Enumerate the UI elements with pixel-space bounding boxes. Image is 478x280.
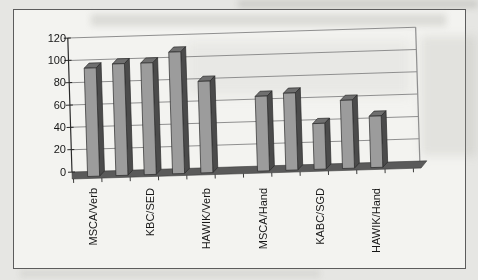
bar xyxy=(255,96,269,171)
bar xyxy=(198,81,213,173)
scan-smudge xyxy=(20,270,320,277)
y-axis-label: 0 xyxy=(60,166,66,178)
x-axis-label: HAWIK/Verb xyxy=(200,188,212,249)
gridline xyxy=(68,27,416,38)
scan-smudge xyxy=(238,0,478,8)
page-background: 020406080100120MSCA/VerbKBC/SEDHAWIK/Ver… xyxy=(0,0,478,280)
bar xyxy=(313,123,326,169)
bar xyxy=(283,93,297,170)
x-axis-label: KBC/SED xyxy=(144,188,156,236)
y-axis-label: 20 xyxy=(54,143,66,155)
x-axis-label: HAWIK/Hand xyxy=(370,188,382,253)
y-axis-label: 80 xyxy=(54,76,66,88)
y-axis-label: 40 xyxy=(54,121,66,133)
chart-svg: 020406080100120MSCA/VerbKBC/SEDHAWIK/Ver… xyxy=(14,10,465,268)
bar xyxy=(369,116,383,168)
y-axis-label: 100 xyxy=(48,54,66,66)
x-axis-label: KABC/SGD xyxy=(314,188,326,245)
x-axis-label: MSCA/Verb xyxy=(87,188,99,245)
figure-box: 020406080100120MSCA/VerbKBC/SEDHAWIK/Ver… xyxy=(13,9,466,269)
bar xyxy=(340,100,354,168)
x-axis-label: MSCA/Hand xyxy=(257,188,269,249)
y-axis-label: 120 xyxy=(48,32,66,44)
y-axis-label: 60 xyxy=(54,99,66,111)
plot-area xyxy=(64,27,427,183)
